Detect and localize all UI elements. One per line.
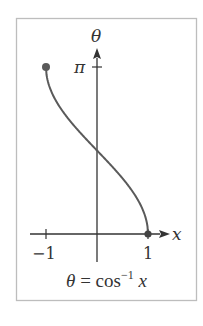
x-tick-label-neg1: −1 (32, 244, 56, 263)
caption-equals-cos: = cos (75, 270, 121, 291)
caption-inverse-exponent: −1 (121, 268, 134, 282)
caption-theta: θ (66, 270, 75, 291)
endpoint-start (42, 63, 50, 71)
y-tick-label-pi: π (73, 57, 86, 77)
caption-x: x (134, 270, 147, 291)
endpoint-end (144, 230, 151, 237)
x-axis-label: x (172, 224, 182, 244)
equation-caption: θ = cos−1 x (16, 270, 197, 294)
y-axis-label: θ (91, 26, 101, 46)
x-tick-label-pos1: 1 (143, 244, 153, 263)
